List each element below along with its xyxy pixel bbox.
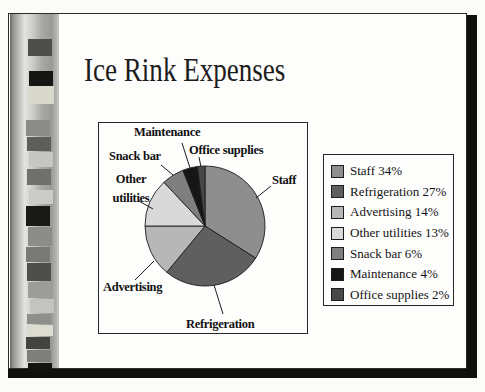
legend-swatch	[331, 288, 344, 301]
strip-square	[27, 314, 51, 324]
legend-item: Staff 34%	[331, 161, 453, 182]
strip-square	[29, 190, 53, 204]
leader-line-office-supplies	[199, 157, 201, 167]
leader-line-refrigeration	[214, 285, 223, 314]
legend-swatch	[331, 268, 344, 281]
legend-swatch	[331, 185, 344, 198]
strip-square	[28, 39, 52, 56]
legend-label: Other utilities 13%	[350, 225, 449, 241]
strip-square	[30, 86, 54, 104]
strip-square	[28, 282, 52, 298]
scanned-slide-page: Ice Rink Expenses Maintenance Office sup…	[0, 0, 485, 392]
slide-title: Ice Rink Expenses	[84, 52, 285, 89]
strip-square	[29, 325, 53, 336]
legend-label: Office supplies 2%	[350, 287, 449, 303]
strip-square	[27, 137, 51, 151]
legend-item: Maintenance 4%	[331, 264, 453, 285]
legend-item: Advertising 14%	[331, 202, 453, 223]
strip-square	[30, 299, 54, 313]
strip-square	[28, 363, 52, 372]
legend-swatch	[331, 165, 344, 178]
leader-line-snack-bar	[161, 165, 173, 175]
slide: Ice Rink Expenses Maintenance Office sup…	[8, 13, 467, 369]
legend-rows: Staff 34%Refrigeration 27%Advertising 14…	[331, 161, 453, 305]
strip-square	[27, 263, 51, 281]
strip-square	[26, 337, 50, 349]
legend-item: Office supplies 2%	[331, 285, 453, 306]
pie-label-other-utilities: Other utilities	[103, 170, 159, 208]
legend-swatch	[331, 206, 344, 219]
pie-label-staff: Staff	[272, 173, 296, 187]
legend-label: Refrigeration 27%	[350, 184, 446, 200]
pie-label-advertising: Advertising	[103, 280, 162, 294]
legend-item: Refrigeration 27%	[331, 182, 453, 203]
strip-square	[29, 71, 53, 86]
strip-square	[27, 350, 51, 362]
pie-label-office-supplies: Office supplies	[189, 143, 263, 157]
film-strip-decoration	[10, 14, 59, 368]
pie-label-snack-bar: Snack bar	[109, 149, 161, 163]
slide-shadow-bottom	[8, 369, 477, 378]
leader-line-staff	[256, 186, 271, 198]
pie-chart-frame: Maintenance Office supplies Snack bar Ot…	[98, 122, 308, 334]
strip-square	[26, 120, 50, 136]
legend-label: Staff 34%	[350, 163, 402, 179]
legend-swatch	[331, 247, 344, 260]
strip-square	[28, 227, 52, 246]
leader-line-advertising	[135, 261, 154, 280]
strip-square	[27, 169, 51, 185]
legend-item: Snack bar 6%	[331, 243, 453, 264]
legend-label: Snack bar 6%	[350, 246, 422, 262]
legend-item: Other utilities 13%	[331, 223, 453, 244]
legend-label: Maintenance 4%	[350, 266, 438, 282]
legend-swatch	[331, 227, 344, 240]
strip-square	[26, 206, 50, 226]
pie-label-maintenance: Maintenance	[134, 125, 200, 139]
pie-label-refrigeration: Refrigeration	[186, 317, 254, 331]
strip-square	[29, 152, 53, 167]
chart-legend: Staff 34%Refrigeration 27%Advertising 14…	[323, 154, 454, 306]
slide-shadow-right	[467, 15, 477, 378]
strip-square	[26, 247, 50, 262]
legend-label: Advertising 14%	[350, 204, 438, 220]
